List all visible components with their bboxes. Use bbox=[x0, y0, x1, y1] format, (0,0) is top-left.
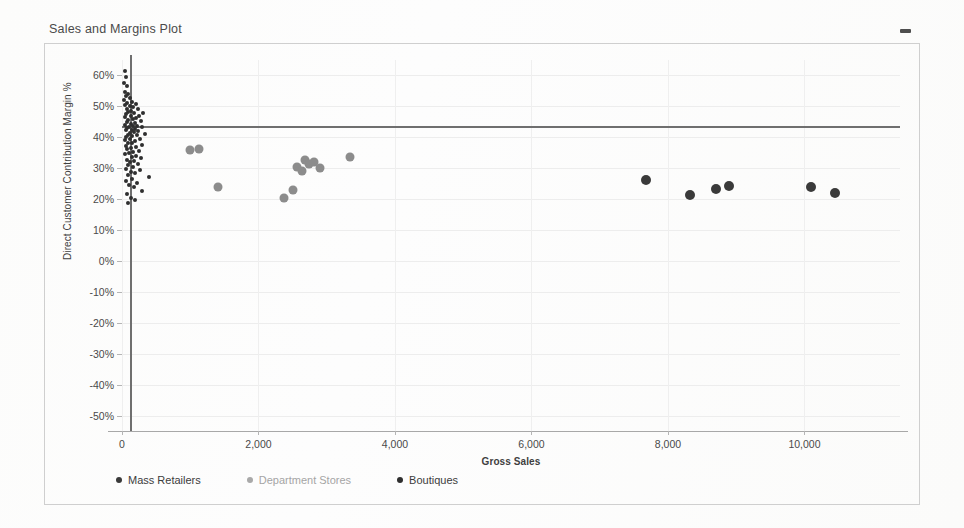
y-tick-label: -40% bbox=[89, 379, 114, 391]
y-tick-label: 10% bbox=[93, 224, 114, 236]
x-axis-title: Gross Sales bbox=[122, 456, 900, 467]
x-tick-mark bbox=[668, 431, 669, 435]
gridline-horizontal bbox=[122, 230, 900, 231]
y-tick-mark bbox=[117, 292, 122, 293]
data-point[interactable] bbox=[136, 162, 140, 166]
gridline-horizontal bbox=[122, 416, 900, 417]
x-tick-label: 10,000 bbox=[788, 438, 820, 450]
x-tick-mark bbox=[122, 431, 123, 435]
gridline-horizontal bbox=[122, 199, 900, 200]
y-tick-label: 40% bbox=[93, 131, 114, 143]
x-tick-label: 8,000 bbox=[655, 438, 681, 450]
data-point[interactable] bbox=[138, 137, 142, 141]
x-tick-mark bbox=[531, 431, 532, 435]
data-point[interactable] bbox=[140, 189, 144, 193]
data-point[interactable] bbox=[131, 165, 135, 169]
data-point[interactable] bbox=[195, 145, 204, 154]
data-point[interactable] bbox=[123, 69, 127, 73]
data-point[interactable] bbox=[133, 198, 137, 202]
data-point[interactable] bbox=[126, 201, 130, 205]
legend-label: Boutiques bbox=[409, 474, 458, 486]
chart-legend: Mass RetailersDepartment StoresBoutiques bbox=[116, 474, 458, 486]
x-tick-label: 0 bbox=[119, 438, 125, 450]
data-point[interactable] bbox=[130, 177, 134, 181]
page-title: Sales and Margins Plot bbox=[49, 22, 182, 36]
y-tick-label: -10% bbox=[89, 286, 114, 298]
data-point[interactable] bbox=[124, 75, 128, 79]
y-tick-label: 60% bbox=[93, 69, 114, 81]
y-tick-mark bbox=[117, 230, 122, 231]
y-tick-mark bbox=[117, 75, 122, 76]
y-tick-mark bbox=[117, 354, 122, 355]
gridline-vertical bbox=[395, 60, 396, 431]
y-tick-label: 50% bbox=[93, 100, 114, 112]
data-point[interactable] bbox=[132, 111, 136, 115]
data-point[interactable] bbox=[124, 167, 128, 171]
x-axis-line bbox=[108, 431, 908, 432]
gridline-horizontal bbox=[122, 354, 900, 355]
gridline-vertical bbox=[804, 60, 805, 431]
y-tick-mark bbox=[117, 416, 122, 417]
x-tick-label: 4,000 bbox=[382, 438, 408, 450]
data-point[interactable] bbox=[315, 164, 324, 173]
data-point[interactable] bbox=[135, 181, 139, 185]
data-point[interactable] bbox=[127, 183, 131, 187]
legend-label: Mass Retailers bbox=[128, 474, 201, 486]
data-point[interactable] bbox=[132, 185, 136, 189]
data-point[interactable] bbox=[130, 141, 134, 145]
legend-label: Department Stores bbox=[259, 474, 351, 486]
data-point[interactable] bbox=[140, 125, 144, 129]
data-point[interactable] bbox=[214, 182, 223, 191]
y-axis-title: Direct Customer Contribution Margin % bbox=[62, 82, 73, 260]
x-tick-mark bbox=[258, 431, 259, 435]
x-tick-mark bbox=[395, 431, 396, 435]
data-point[interactable] bbox=[133, 171, 137, 175]
data-point[interactable] bbox=[139, 156, 143, 160]
legend-item-department[interactable]: Department Stores bbox=[247, 474, 351, 486]
data-point[interactable] bbox=[137, 149, 141, 153]
data-point[interactable] bbox=[123, 152, 127, 156]
data-point[interactable] bbox=[345, 153, 354, 162]
data-point[interactable] bbox=[125, 84, 129, 88]
plot-area: 60%50%40%30%20%10%0%-10%-20%-30%-40%-50%… bbox=[122, 60, 900, 431]
legend-item-mass[interactable]: Mass Retailers bbox=[116, 474, 201, 486]
x-tick-label: 2,000 bbox=[245, 438, 271, 450]
gridline-horizontal bbox=[122, 137, 900, 138]
data-point[interactable] bbox=[830, 188, 840, 198]
data-point[interactable] bbox=[141, 111, 145, 115]
y-tick-label: -30% bbox=[89, 348, 114, 360]
data-point[interactable] bbox=[134, 116, 138, 120]
y-tick-mark bbox=[117, 106, 122, 107]
data-point[interactable] bbox=[724, 181, 734, 191]
gridline-horizontal bbox=[122, 385, 900, 386]
y-tick-label: -20% bbox=[89, 317, 114, 329]
data-point[interactable] bbox=[134, 154, 138, 158]
data-point[interactable] bbox=[139, 119, 143, 123]
gridline-horizontal bbox=[122, 323, 900, 324]
minimize-icon[interactable] bbox=[900, 29, 911, 33]
data-point[interactable] bbox=[136, 107, 140, 111]
data-point[interactable] bbox=[806, 182, 816, 192]
gridline-horizontal bbox=[122, 261, 900, 262]
y-tick-mark bbox=[117, 199, 122, 200]
data-point[interactable] bbox=[143, 132, 147, 136]
x-tick-label: 6,000 bbox=[518, 438, 544, 450]
y-tick-label: 20% bbox=[93, 193, 114, 205]
data-point[interactable] bbox=[641, 175, 651, 185]
y-tick-mark bbox=[117, 323, 122, 324]
data-point[interactable] bbox=[138, 168, 142, 172]
data-point[interactable] bbox=[685, 190, 695, 200]
gridline-horizontal bbox=[122, 75, 900, 76]
data-point[interactable] bbox=[289, 186, 298, 195]
data-point[interactable] bbox=[147, 175, 151, 179]
legend-item-boutiques[interactable]: Boutiques bbox=[397, 474, 458, 486]
y-tick-label: 30% bbox=[93, 162, 114, 174]
data-point[interactable] bbox=[711, 184, 721, 194]
data-point[interactable] bbox=[279, 193, 288, 202]
data-point[interactable] bbox=[186, 145, 195, 154]
y-tick-label: -50% bbox=[89, 410, 114, 422]
gridline-horizontal bbox=[122, 292, 900, 293]
data-point[interactable] bbox=[140, 143, 144, 147]
data-point[interactable] bbox=[125, 192, 129, 196]
legend-marker-icon bbox=[247, 477, 253, 483]
